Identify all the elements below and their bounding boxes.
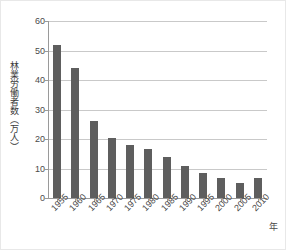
x-axis-tick-label: 1955 — [49, 192, 70, 213]
x-axis-tick-label: 1970 — [104, 192, 125, 213]
x-axis-tick-label: 1975 — [122, 192, 143, 213]
x-axis-tick-label: 1965 — [86, 192, 107, 213]
x-axis-unit-label: 年 — [269, 220, 278, 233]
x-axis-tick-label: 1960 — [67, 192, 88, 213]
x-axis-tick-label: 2005 — [232, 192, 253, 213]
bar-chart-figure: 林業労働者数（万人） 0102030405060 195519601965197… — [0, 0, 286, 250]
x-axis-tick-label: 2010 — [250, 192, 271, 213]
x-axis-tick-label: 1990 — [177, 192, 198, 213]
x-axis-tick-label-group: 1955196019651970197519801985199019952000… — [1, 1, 286, 250]
x-axis-tick-label: 2000 — [213, 192, 234, 213]
x-axis-tick-label: 1980 — [140, 192, 161, 213]
x-axis-tick-label: 1985 — [159, 192, 180, 213]
x-axis-tick-label: 1995 — [195, 192, 216, 213]
